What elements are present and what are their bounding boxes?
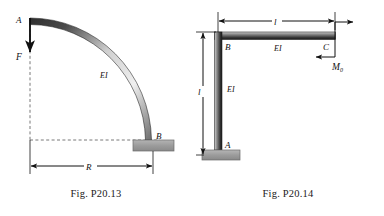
label-moment-subscript: 0: [340, 67, 343, 73]
caption-p20-13: Fig. P20.13: [0, 188, 192, 199]
figure-sheet: A F EI B R Fig. P20.13: [0, 0, 384, 216]
label-dimension-l-vertical: l: [198, 87, 201, 97]
fixed-support-b: [133, 140, 174, 151]
label-ei-arc: EI: [99, 71, 108, 80]
horizontal-beam-bc: [215, 32, 336, 40]
label-point-c: C: [323, 42, 330, 52]
label-point-a: A: [224, 140, 231, 150]
label-ei-beam: EI: [273, 44, 282, 53]
label-dimension-r: R: [85, 162, 92, 172]
label-ei-column: EI: [226, 85, 235, 94]
caption-p20-14: Fig. P20.14: [192, 188, 384, 199]
figure-p20-13: A F EI B R Fig. P20.13: [0, 0, 192, 216]
label-dimension-l-horizontal: l: [274, 17, 277, 27]
figure-p20-13-drawing: A F EI B R: [0, 0, 192, 188]
figure-p20-14: B A C EI EI l l: [192, 0, 384, 216]
label-point-b: B: [156, 131, 162, 141]
fixed-support-a: [202, 150, 240, 160]
vertical-column-ab: [215, 32, 223, 150]
figure-p20-14-drawing: B A C EI EI l l: [192, 0, 384, 188]
label-moment-m0: M0: [331, 62, 343, 73]
label-point-b: B: [225, 42, 231, 52]
label-point-a: A: [15, 15, 22, 25]
label-force-f: F: [15, 52, 22, 62]
curved-beam-member: [30, 18, 152, 140]
